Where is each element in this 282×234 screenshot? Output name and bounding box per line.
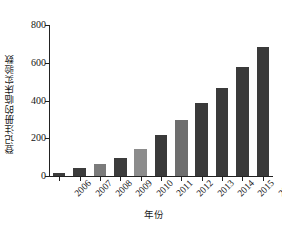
x-tick-label: 2013 — [215, 178, 236, 199]
chart-figure: 登记注册的临床实验数 0200400600800 200620072008200… — [0, 0, 282, 234]
y-tick-label: 600 — [22, 57, 46, 68]
y-tick-mark — [45, 138, 49, 139]
y-tick-label: 200 — [22, 132, 46, 143]
x-tick-label: 2016 — [276, 178, 282, 199]
x-tick-label: 2010 — [154, 178, 175, 199]
bar — [216, 88, 229, 176]
y-tick-mark — [45, 101, 49, 102]
x-tick-label: 2009 — [134, 178, 155, 199]
bar — [114, 158, 127, 176]
x-tick-label: 2014 — [236, 178, 257, 199]
y-axis-tick-labels: 0200400600800 — [20, 0, 46, 234]
bar — [175, 120, 188, 176]
y-tick-label: 0 — [22, 170, 46, 181]
x-tick-label: 2015 — [256, 178, 277, 199]
y-axis-title: 登记注册的临床实验数 — [1, 38, 19, 170]
x-tick-label: 2008 — [113, 178, 134, 199]
bar — [257, 47, 270, 176]
bar — [53, 173, 66, 176]
x-tick-label: 2012 — [195, 178, 216, 199]
y-tick-mark — [45, 176, 49, 177]
bar — [73, 168, 86, 176]
x-tick-label: 2011 — [174, 178, 194, 198]
bar — [94, 164, 107, 176]
y-tick-label: 800 — [22, 19, 46, 30]
x-tick-label: 2006 — [73, 178, 94, 199]
y-tick-mark — [45, 25, 49, 26]
x-axis-tick-labels: 2006200720082009201020112012201320142015… — [49, 178, 282, 210]
bar — [195, 103, 208, 176]
x-axis-title: 年份 — [0, 207, 282, 221]
y-tick-label: 400 — [22, 95, 46, 106]
plot-area — [49, 22, 273, 176]
y-tick-mark — [45, 63, 49, 64]
bar — [155, 135, 168, 176]
bar — [236, 67, 249, 176]
x-tick-label: 2007 — [93, 178, 114, 199]
bar-series — [49, 22, 273, 176]
bar — [134, 149, 147, 176]
